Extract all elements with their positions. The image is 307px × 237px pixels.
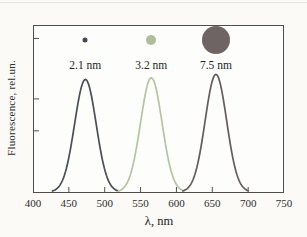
x-axis-label: λ, nm xyxy=(145,214,173,229)
x-tick-label-600: 600 xyxy=(168,197,185,209)
page-scan-artifact-line xyxy=(0,2,307,3)
x-tick-label-650: 650 xyxy=(204,197,221,209)
spectrum-curve-2-1-nm xyxy=(52,79,117,191)
spectrum-curve-3-2-nm xyxy=(118,78,183,191)
x-tick-label-550: 550 xyxy=(132,197,149,209)
spectra-plot xyxy=(33,25,284,193)
x-tick-label-700: 700 xyxy=(240,197,257,209)
x-tick-label-400: 400 xyxy=(25,197,42,209)
x-tick-label-750: 750 xyxy=(276,197,293,209)
x-tick-label-450: 450 xyxy=(61,197,78,209)
spectrum-curve-7-5-nm xyxy=(183,74,248,190)
y-axis-label: Fluorescence, rel.un. xyxy=(5,60,17,156)
fluorescence-spectra-figure: Fluorescence, rel.un. λ, nm 400450500550… xyxy=(0,0,307,237)
x-tick-label-500: 500 xyxy=(96,197,113,209)
